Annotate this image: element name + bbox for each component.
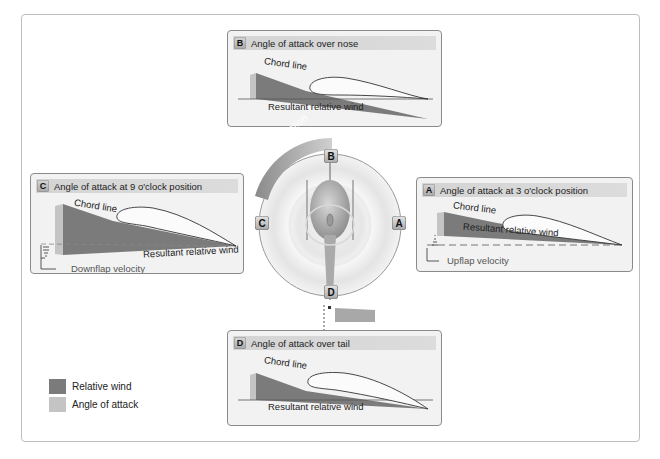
angle-of-attack-swatch bbox=[49, 397, 66, 412]
angle-of-attack-band bbox=[250, 73, 256, 99]
rotor-disc-diagram: Blade rotation B C A D bbox=[240, 130, 420, 334]
legend-item-angle-of-attack: Angle of attack bbox=[49, 395, 138, 413]
marker-a: A bbox=[392, 216, 406, 230]
marker-c: C bbox=[255, 216, 269, 230]
angle-of-attack-band bbox=[250, 373, 256, 400]
downflap-velocity-label: Downflap velocity bbox=[71, 263, 145, 274]
legend: Relative wind Angle of attack bbox=[49, 377, 138, 413]
panel-c-9-oclock: C Angle of attack at 9 o'clock position … bbox=[30, 173, 244, 274]
airfoil-diagram bbox=[228, 31, 442, 127]
panel-b-over-nose: B Angle of attack over nose Chord line R… bbox=[227, 30, 442, 127]
rotor-hub bbox=[327, 214, 333, 226]
panel-a-3-oclock: A Angle of attack at 3 o'clock position … bbox=[416, 177, 633, 272]
airfoil-diagram bbox=[31, 174, 244, 274]
legend-label: Relative wind bbox=[72, 381, 131, 392]
legend-label: Angle of attack bbox=[72, 399, 138, 410]
resultant-wind-label: Resultant relative wind bbox=[268, 401, 364, 412]
angle-of-attack-band bbox=[437, 212, 444, 236]
fuselage bbox=[310, 180, 350, 240]
upflap-velocity-label: Upflap velocity bbox=[447, 255, 509, 266]
airfoil bbox=[310, 77, 428, 99]
legend-item-relative-wind: Relative wind bbox=[49, 377, 138, 395]
panel-d-over-tail: D Angle of attack over tail Chord line R… bbox=[227, 330, 442, 426]
upflap-arrow-icon bbox=[427, 235, 439, 261]
relative-wind-swatch bbox=[49, 379, 66, 394]
tail-rotor-hub bbox=[328, 306, 331, 309]
marker-d: D bbox=[324, 285, 338, 299]
marker-b: B bbox=[324, 149, 338, 163]
tail-fin bbox=[335, 308, 375, 322]
downflap-arrow-icon bbox=[41, 245, 56, 269]
resultant-wind-label: Resultant relative wind bbox=[268, 101, 364, 112]
angle-of-attack-band bbox=[55, 204, 63, 255]
